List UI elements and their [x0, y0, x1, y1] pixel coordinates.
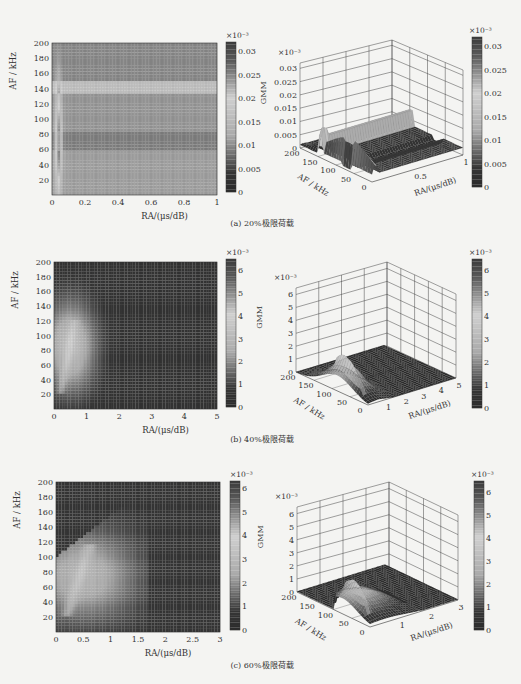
heatmap-cell [168, 366, 171, 369]
heatmap-cell [212, 326, 215, 329]
heatmap-cell [182, 545, 185, 548]
heatmap-cell [108, 400, 111, 403]
heatmap-cell [118, 138, 121, 141]
heatmap-cell [198, 516, 201, 519]
heatmap-cell [67, 607, 70, 610]
heatmap-cell [143, 607, 146, 610]
heatmap-cell [201, 290, 204, 293]
heatmap-cell [209, 570, 212, 573]
heatmap-cell [116, 560, 119, 563]
heatmap-cell [135, 68, 138, 71]
heatmap-cell [179, 551, 182, 554]
heatmap-cell [102, 103, 105, 106]
heatmap-cell [182, 570, 185, 573]
heatmap-cell [83, 579, 86, 582]
colorbar-swatch [472, 82, 482, 85]
heatmap-cell [113, 100, 116, 103]
heatmap-cell [62, 274, 65, 277]
heatmap-cell [83, 563, 86, 566]
heatmap-cell [59, 391, 62, 394]
ra-tick-label: 5 [456, 381, 461, 390]
heatmap-cell [72, 610, 75, 613]
heatmap-cell [176, 588, 179, 591]
heatmap-cell [130, 620, 133, 623]
heatmap-cell [124, 629, 127, 632]
heatmap-cell [62, 403, 65, 406]
heatmap-cell [171, 290, 174, 293]
heatmap-cell [129, 151, 132, 154]
heatmap-cell [195, 573, 198, 576]
ra-axis-label: RA/(μs/dB) [409, 621, 453, 643]
heatmap-cell [157, 141, 160, 144]
heatmap-cell [152, 570, 155, 573]
heatmap-cell [116, 541, 119, 544]
heatmap-cell [146, 601, 149, 604]
heatmap-cell [157, 510, 160, 513]
heatmap-cell [55, 148, 58, 151]
heatmap-cell [113, 179, 116, 182]
heatmap-cell [212, 138, 215, 141]
heatmap-cell [130, 302, 133, 305]
heatmap-cell [125, 299, 128, 302]
heatmap-cell [151, 97, 154, 100]
heatmap-cell [129, 170, 132, 173]
heatmap-cell [78, 588, 81, 591]
heatmap-cell [187, 485, 190, 488]
heatmap-cell [113, 72, 116, 75]
heatmap-cell [157, 72, 160, 75]
heatmap-cell [99, 189, 102, 192]
heatmap-cell [157, 94, 160, 97]
heatmap-cell [68, 314, 71, 317]
heatmap-cell [56, 626, 59, 629]
heatmap-cell [137, 154, 140, 157]
heatmap-cell [118, 46, 121, 49]
heatmap-cell [190, 314, 193, 317]
heatmap-cell [198, 526, 201, 529]
heatmap-cell [73, 293, 76, 296]
heatmap-cell [170, 100, 173, 103]
heatmap-cell [146, 271, 149, 274]
heatmap-cell [77, 154, 80, 157]
heatmap-cell [176, 160, 179, 163]
colorbar-swatch [472, 112, 482, 115]
heatmap-cell [88, 167, 91, 170]
heatmap-cell [159, 97, 162, 100]
heatmap-cell [121, 186, 124, 189]
heatmap-cell [157, 588, 160, 591]
heatmap-cell [143, 545, 146, 548]
heatmap-cell [155, 397, 158, 400]
heatmap-cell [187, 323, 190, 326]
heatmap-cell [190, 290, 193, 293]
heatmap-cell [187, 498, 190, 501]
heatmap-cell [174, 280, 177, 283]
heatmap-cell [83, 554, 86, 557]
heatmap-cell [143, 516, 146, 519]
heatmap-cell [165, 91, 168, 94]
heatmap-cell [97, 290, 100, 293]
heatmap-cell [209, 339, 212, 342]
heatmap-cell [203, 182, 206, 185]
heatmap-cell [100, 302, 103, 305]
heatmap-cell [214, 192, 217, 195]
heatmap-cell [113, 504, 116, 507]
heatmap-cell [187, 613, 190, 616]
heatmap-cell [173, 182, 176, 185]
colorbar-swatch [226, 72, 236, 75]
heatmap-cell [148, 116, 151, 119]
heatmap-cell [115, 163, 118, 166]
heatmap-cell [203, 192, 206, 195]
heatmap-cell [133, 348, 136, 351]
heatmap-cell [63, 94, 66, 97]
heatmap-cell [77, 43, 80, 46]
colorbar-swatch [226, 125, 236, 128]
heatmap-cell [206, 148, 209, 151]
heatmap-cell [152, 598, 155, 601]
heatmap-cell [193, 369, 196, 372]
heatmap-cell [82, 68, 85, 71]
heatmap-cell [95, 271, 98, 274]
heatmap-cell [108, 620, 111, 623]
heatmap-cell [160, 326, 163, 329]
heatmap-cell [113, 563, 116, 566]
heatmap-cell [96, 46, 99, 49]
heatmap-cell [157, 144, 160, 147]
